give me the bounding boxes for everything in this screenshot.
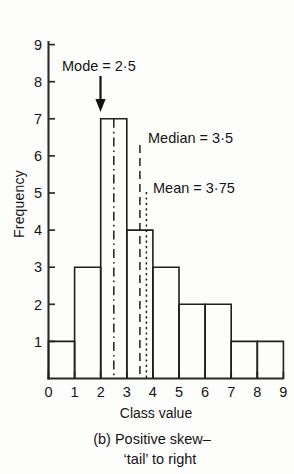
histogram-plot: 1 2 3 4 5 6 7 8 9 0 1 2 3 xyxy=(0,0,294,474)
y-tick-label: 5 xyxy=(34,185,42,201)
x-tick-label: 9 xyxy=(279,384,287,400)
histogram-bars xyxy=(49,119,284,379)
bar-6-7 xyxy=(205,304,231,378)
bar-8-9 xyxy=(257,341,283,378)
x-tick-label: 7 xyxy=(227,384,235,400)
y-tick-label: 3 xyxy=(34,259,42,275)
mean-annotation-label: Mean = 3·75 xyxy=(153,180,235,196)
y-tick-label: 4 xyxy=(34,222,42,238)
figure-container: Frequency 1 2 3 4 5 6 7 8 9 xyxy=(0,0,294,474)
x-axis-title: Class value xyxy=(120,405,193,421)
y-tick-label: 9 xyxy=(34,37,42,53)
caption-line-1: (b) Positive skew– xyxy=(93,431,212,447)
y-tick-label: 1 xyxy=(34,334,42,350)
x-tick-label: 4 xyxy=(149,384,157,400)
bar-5-6 xyxy=(179,304,205,378)
bar-0-1 xyxy=(49,341,75,378)
x-tick-label: 0 xyxy=(44,384,52,400)
y-tick-label: 7 xyxy=(34,111,42,127)
caption-line-2: ‘tail’ to right xyxy=(124,451,197,467)
x-tick-label: 3 xyxy=(123,384,131,400)
bar-1-2 xyxy=(75,267,101,378)
y-tick-label: 2 xyxy=(34,297,42,313)
bar-7-8 xyxy=(231,341,257,378)
mode-arrow-head xyxy=(95,99,105,112)
x-axis-tick-labels: 0 1 2 3 4 5 6 7 8 9 xyxy=(44,384,287,400)
y-tick-label: 6 xyxy=(34,148,42,164)
median-annotation-label: Median = 3·5 xyxy=(148,130,233,146)
x-tick-label: 1 xyxy=(71,384,79,400)
y-tick-label: 8 xyxy=(34,74,42,90)
x-tick-label: 2 xyxy=(97,384,105,400)
x-tick-label: 6 xyxy=(201,384,209,400)
x-tick-label: 5 xyxy=(175,384,183,400)
y-axis-tick-labels: 1 2 3 4 5 6 7 8 9 xyxy=(34,37,42,350)
mode-annotation-label: Mode = 2·5 xyxy=(62,58,136,74)
bar-4-5 xyxy=(153,267,179,378)
x-tick-label: 8 xyxy=(253,384,261,400)
